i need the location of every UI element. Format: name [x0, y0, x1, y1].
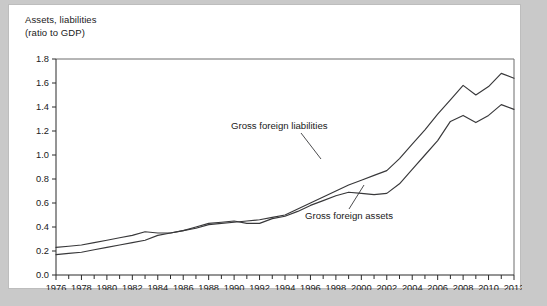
- y-axis-tick-label: 0.4: [36, 222, 49, 232]
- annotation-liabilities-leader: [301, 133, 321, 159]
- x-axis-tick-label: 2006: [427, 283, 448, 290]
- chart-plot: 0.00.20.40.60.81.01.21.41.61.81976197819…: [9, 5, 522, 290]
- x-axis-tick-label: 1990: [224, 283, 245, 290]
- x-axis-tick-label: 2000: [351, 283, 372, 290]
- annotation-assets-leader: [349, 185, 364, 209]
- x-axis-tick-label: 2004: [402, 283, 423, 290]
- x-axis-tick-label: 1988: [198, 283, 219, 290]
- series-line-liabilities: [56, 73, 514, 247]
- x-axis-tick-label: 1976: [46, 283, 67, 290]
- x-axis-tick-label: 1998: [326, 283, 347, 290]
- y-axis-tick-label: 1.0: [36, 150, 49, 160]
- x-axis-tick-label: 2010: [478, 283, 499, 290]
- chart-card: Assets, liabilities (ratio to GDP) 0.00.…: [8, 4, 521, 289]
- x-axis-tick-label: 1980: [97, 283, 118, 290]
- y-axis-tick-label: 1.6: [36, 78, 49, 88]
- y-axis-tick-label: 1.2: [36, 126, 49, 136]
- figure-container: Assets, liabilities (ratio to GDP) 0.00.…: [0, 0, 547, 306]
- plot-axes: [56, 59, 514, 275]
- x-axis-tick-label: 1996: [300, 283, 321, 290]
- plot-frame: [56, 59, 514, 275]
- y-axis-tick-label: 0.6: [36, 198, 49, 208]
- x-axis-tick-label: 1986: [173, 283, 194, 290]
- x-axis-tick-label: 1992: [249, 283, 270, 290]
- x-axis-tick-label: 2012: [504, 283, 522, 290]
- y-axis-tick-label: 1.4: [36, 102, 49, 112]
- y-axis-tick-label: 1.8: [36, 54, 49, 64]
- y-axis-tick-label: 0.8: [36, 174, 49, 184]
- x-axis-tick-label: 2002: [376, 283, 397, 290]
- x-axis-tick-label: 1984: [147, 283, 168, 290]
- x-axis-tick-label: 1982: [122, 283, 143, 290]
- x-axis-tick-label: 2008: [453, 283, 474, 290]
- y-axis-tick-label: 0.2: [36, 246, 49, 256]
- y-axis-tick-label: 0.0: [36, 270, 49, 280]
- x-axis-tick-label: 1994: [275, 283, 296, 290]
- x-axis-tick-label: 1978: [71, 283, 92, 290]
- annotation-assets: Gross foreign assets: [305, 210, 393, 221]
- annotation-liabilities: Gross foreign liabilities: [231, 120, 328, 131]
